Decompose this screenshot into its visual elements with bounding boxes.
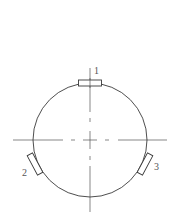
label-3: 3: [154, 161, 159, 172]
label-2: 2: [22, 167, 27, 178]
diagram-canvas: 1 2 3: [0, 0, 183, 222]
label-1: 1: [94, 65, 99, 76]
